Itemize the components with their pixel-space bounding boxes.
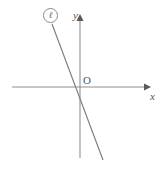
y-axis-label: y — [73, 10, 78, 21]
figure-canvas: ℓ y O x — [0, 0, 165, 170]
line-ell — [52, 24, 103, 160]
origin-label: O — [83, 75, 91, 86]
line-label-ell: ℓ — [43, 8, 58, 23]
x-axis-label: x — [150, 91, 155, 102]
